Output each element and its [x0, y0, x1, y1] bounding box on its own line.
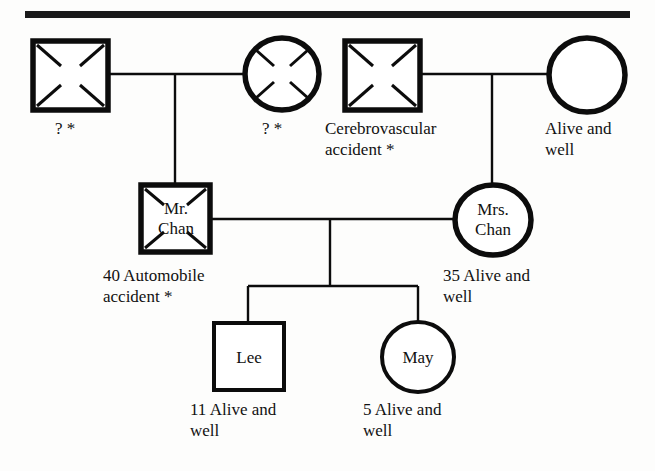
father-name-line1: Mr. — [164, 199, 188, 218]
node-mother[interactable]: Mrs. Chan — [455, 185, 531, 255]
son-name: Lee — [236, 348, 261, 367]
female-circle-symbol — [245, 38, 319, 110]
top-divider-rule — [25, 11, 630, 18]
caption-paternal-grandfather: ? * — [55, 118, 75, 139]
node-son[interactable]: Lee — [214, 323, 284, 390]
node-father[interactable]: Mr. Chan — [141, 185, 210, 252]
caption-mother: 35 Alive and well — [443, 265, 593, 307]
female-circle-symbol — [549, 38, 625, 112]
node-paternal-grandmother[interactable] — [245, 38, 319, 110]
mother-name-line2: Chan — [475, 220, 511, 239]
caption-maternal-grandmother: Alive and well — [545, 118, 655, 160]
caption-son: 11 Alive and well — [190, 399, 340, 441]
caption-father: 40 Automobile accident * — [103, 265, 263, 307]
mother-name-line1: Mrs. — [477, 200, 509, 219]
daughter-name: May — [402, 348, 434, 367]
father-name-line2: Chan — [158, 219, 194, 238]
node-paternal-grandfather[interactable] — [33, 41, 108, 110]
node-maternal-grandmother[interactable] — [549, 38, 625, 112]
caption-paternal-grandmother: ? * — [262, 118, 282, 139]
node-daughter[interactable]: May — [382, 322, 454, 392]
caption-daughter: 5 Alive and well — [363, 399, 513, 441]
node-maternal-grandfather[interactable] — [345, 41, 420, 110]
caption-maternal-grandfather: Cerebrovascular accident * — [325, 118, 495, 160]
genogram-page: Mr. Chan Mrs. Chan Lee May ? * ? * Cereb… — [0, 0, 655, 471]
